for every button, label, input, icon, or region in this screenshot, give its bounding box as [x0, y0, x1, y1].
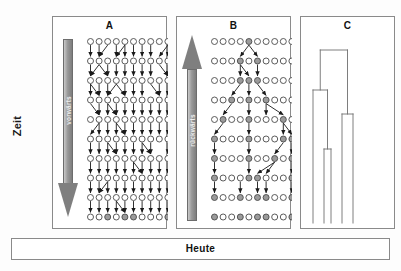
- lineage-arrow: [116, 123, 125, 134]
- lattice-node-open: [263, 136, 269, 142]
- lattice-node-open: [255, 117, 261, 123]
- lattice-node-filled: [220, 117, 226, 123]
- lattice-node-open: [148, 156, 154, 162]
- lattice-node-open: [272, 175, 278, 181]
- lattice-node-open: [229, 195, 235, 201]
- panel-c: C: [300, 16, 395, 229]
- lattice-node-open: [105, 117, 111, 123]
- panel-b-lattice: [177, 17, 292, 230]
- lattice-node-filled: [212, 214, 218, 220]
- lattice-node-open: [272, 97, 278, 103]
- lattice-node-open: [139, 156, 145, 162]
- lattice-node-filled: [122, 214, 128, 220]
- lattice-node-open: [105, 58, 111, 64]
- lattice-node-open: [246, 214, 252, 220]
- lineage-arrow: [232, 84, 241, 95]
- lattice-node-open: [289, 117, 292, 123]
- lattice-node-open: [131, 97, 137, 103]
- lattice-node-open: [255, 156, 261, 162]
- lattice-node-open: [280, 58, 286, 64]
- lineage-arrow: [240, 65, 249, 76]
- lattice-node-open: [165, 78, 168, 84]
- lattice-node-open: [105, 97, 111, 103]
- lattice-node-filled: [131, 214, 137, 220]
- lineage-arrow: [99, 182, 108, 193]
- lattice-node-open: [156, 195, 162, 201]
- lattice-node-open: [131, 58, 137, 64]
- panel-a: A vorwärts: [52, 16, 167, 229]
- lineage-arrow: [91, 84, 100, 95]
- lattice-node-filled: [212, 156, 218, 162]
- lattice-node-filled: [237, 195, 243, 201]
- lattice-node-open: [113, 195, 119, 201]
- lattice-node-open: [122, 175, 128, 181]
- lattice-node-filled: [246, 97, 252, 103]
- lattice-node-open: [220, 195, 226, 201]
- lineage-arrow: [215, 123, 224, 134]
- lattice-node-open: [212, 58, 218, 64]
- lattice-node-open: [229, 58, 235, 64]
- lattice-node-filled: [165, 214, 168, 220]
- lineage-arrow: [99, 45, 108, 56]
- lattice-node-filled: [289, 195, 292, 201]
- lattice-node-open: [148, 175, 154, 181]
- lattice-node-open: [220, 97, 226, 103]
- lattice-node-open: [229, 214, 235, 220]
- lineage-arrow: [108, 104, 117, 115]
- lattice-node-open: [255, 97, 261, 103]
- lattice-node-open: [148, 97, 154, 103]
- lattice-node-open: [289, 58, 292, 64]
- lattice-node-filled: [280, 117, 286, 123]
- lattice-node-open: [280, 175, 286, 181]
- lattice-node-open: [237, 117, 243, 123]
- lattice-node-filled: [237, 78, 243, 84]
- lattice-node-open: [122, 195, 128, 201]
- lattice-node-filled: [237, 58, 243, 64]
- lineage-arrow: [223, 104, 232, 115]
- time-axis-label: Zeit: [9, 102, 25, 150]
- lattice-node-open: [139, 78, 145, 84]
- lattice-node-open: [280, 195, 286, 201]
- lineage-arrow: [116, 84, 125, 95]
- lattice-node-open: [255, 39, 261, 45]
- lattice-node-filled: [289, 156, 292, 162]
- present-day-label: Heute: [12, 239, 389, 259]
- lattice-node-open: [148, 39, 154, 45]
- lineage-arrow: [116, 45, 125, 56]
- lattice-node-open: [139, 214, 145, 220]
- lattice-node-open: [280, 214, 286, 220]
- lattice-node-open: [156, 58, 162, 64]
- lattice-node-open: [246, 58, 252, 64]
- lattice-node-open: [139, 117, 145, 123]
- lattice-node-filled: [246, 156, 252, 162]
- lattice-node-open: [156, 175, 162, 181]
- lattice-node-open: [272, 39, 278, 45]
- lattice-node-open: [88, 39, 94, 45]
- lineage-arrow: [91, 104, 100, 115]
- lattice-node-filled: [255, 58, 261, 64]
- lattice-node-filled: [289, 175, 292, 181]
- lattice-node-open: [113, 214, 119, 220]
- lineage-arrow: [283, 123, 292, 134]
- lattice-node-open: [122, 39, 128, 45]
- lattice-node-open: [280, 97, 286, 103]
- lattice-node-open: [139, 39, 145, 45]
- lattice-node-open: [212, 39, 218, 45]
- lattice-node-filled: [263, 195, 269, 201]
- lattice-node-open: [255, 136, 261, 142]
- lattice-node-open: [263, 58, 269, 64]
- lattice-node-open: [113, 156, 119, 162]
- lattice-node-open: [131, 156, 137, 162]
- lattice-node-filled: [289, 136, 292, 142]
- lineage-arrow: [266, 162, 275, 173]
- lattice-node-open: [272, 117, 278, 123]
- lattice-node-filled: [246, 39, 252, 45]
- lattice-node-open: [165, 195, 168, 201]
- lattice-node-open: [156, 117, 162, 123]
- lattice-node-filled: [212, 175, 218, 181]
- lattice-node-open: [131, 195, 137, 201]
- lattice-node-filled: [255, 78, 261, 84]
- lattice-node-open: [113, 136, 119, 142]
- lattice-node-open: [220, 214, 226, 220]
- lattice-node-open: [229, 39, 235, 45]
